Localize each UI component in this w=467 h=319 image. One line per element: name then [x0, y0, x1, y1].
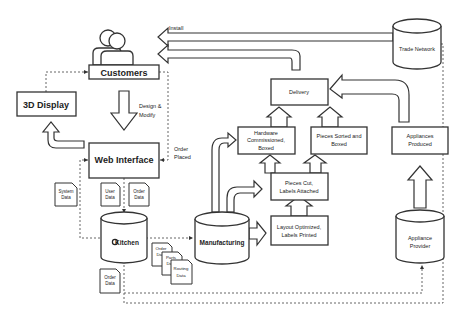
delivery-to-customers-arrow	[158, 45, 300, 70]
appliance-provider-line1: Appliance	[408, 235, 432, 241]
hardware-line1: Hardware	[254, 130, 278, 136]
manufacturing-to-pieces-cut-arrow	[227, 181, 262, 212]
provider-to-appliances-arrow	[408, 166, 432, 208]
appliance-provider-line2: Provider	[410, 243, 431, 249]
design-modify-arrow	[111, 91, 137, 130]
user-data-doc: User Data	[101, 183, 120, 206]
trade-network-label: Trade Network	[399, 46, 435, 52]
kitchen-label: Kitchen	[115, 239, 139, 246]
appliances-to-delivery-arrow	[330, 75, 409, 122]
design-modify-label-2: Modify	[139, 112, 155, 118]
pieces-cut-line2: Labels Attached	[279, 188, 318, 194]
hardware-line3: Boxed	[258, 145, 274, 151]
web-to-display-arrow	[43, 122, 84, 148]
workflow-diagram: Customers Install Design & Modify Order …	[0, 0, 467, 319]
user-data-line2: Data	[105, 195, 115, 200]
web-interface-label: Web Interface	[95, 155, 154, 165]
web-interface-node: Web Interface	[89, 143, 159, 178]
parts-data-line1: Parts	[166, 255, 176, 260]
arrowhead-icon	[84, 70, 88, 74]
3d-display-label: 3D Display	[23, 100, 69, 110]
appliances-produced-node: Appliances Produced	[392, 127, 448, 154]
document-icon	[171, 260, 192, 284]
manufacturing-label: Manufacturing	[200, 239, 245, 247]
appliances-produced-line1: Appliances	[407, 133, 434, 139]
kitchen-node: Kitchen	[101, 212, 147, 263]
hardware-line2: Commissioned,	[247, 137, 285, 143]
pieces-cut-box	[271, 173, 328, 200]
arrowhead-icon	[160, 158, 164, 162]
system-data-line1: System	[58, 189, 73, 194]
order-placed-connector	[159, 72, 168, 160]
arrowhead-icon	[420, 265, 424, 269]
order-data-bottom-line1: Order	[104, 275, 116, 280]
hardware-commissioned-node: Hardware Commissioned, Boxed	[238, 127, 295, 154]
order-data-top-line1: Order	[133, 189, 145, 194]
pieces-sorted-line2: Boxed	[331, 141, 347, 147]
pieces-cut-line1: Pieces Cut,	[285, 180, 314, 186]
customers-label: Customers	[100, 68, 147, 78]
pieces-cut-to-hardware-arrow	[260, 155, 280, 173]
arrowhead-icon	[189, 236, 193, 240]
system-data-doc: System Data	[55, 183, 77, 206]
appliance-provider-cylinder-top	[396, 210, 444, 222]
order-data-stack-line1: Order	[156, 246, 168, 251]
appliance-provider-node: Appliance Provider	[396, 210, 444, 263]
arrowhead-icon	[84, 158, 88, 162]
appliances-produced-line2: Produced	[408, 141, 432, 147]
pieces-cut-to-sorted-arrow	[304, 155, 326, 173]
layout-optimized-line1: Layout Optimized,	[277, 224, 322, 230]
order-parts-routing-docs: Order Data Parts Data Routing Data	[152, 243, 192, 284]
layout-optimized-node: Layout Optimized, Labels Printed	[271, 216, 328, 245]
routing-data-line1: Routing	[174, 266, 189, 271]
delivery-node: Delivery	[271, 79, 328, 105]
order-placed-label-2: Placed	[174, 154, 191, 160]
pieces-sorted-line1: Pieces Sorted and	[317, 133, 362, 139]
layout-optimized-box	[271, 216, 328, 245]
layout-optimized-line2: Labels Printed	[281, 232, 316, 238]
display-to-customers-connector	[46, 72, 88, 92]
delivery-label: Delivery	[289, 89, 309, 95]
routing-data-line2: Data	[176, 273, 186, 278]
hardware-to-delivery-arrow	[267, 107, 291, 127]
3d-display-node: 3D Display	[17, 92, 76, 116]
order-data-bottom-line2: Data	[105, 281, 115, 286]
sorted-to-delivery-arrow	[318, 107, 342, 127]
system-data-line2: Data	[61, 195, 71, 200]
trade-network-cylinder-top	[393, 19, 441, 33]
kitchen-cylinder-top	[101, 212, 147, 224]
order-data-doc-top: Order Data	[129, 183, 149, 206]
trade-network-node: Trade Network	[393, 19, 441, 69]
people-icon	[93, 30, 133, 65]
manufacturing-to-layout-arrow	[249, 222, 266, 245]
design-modify-label-1: Design &	[139, 103, 162, 109]
order-data-top-line2: Data	[134, 195, 144, 200]
install-arrow	[158, 28, 393, 46]
order-placed-label-1: Order	[174, 146, 188, 152]
pieces-cut-node: Pieces Cut, Labels Attached	[271, 173, 328, 200]
order-data-doc-bottom: Order Data	[100, 269, 120, 293]
manufacturing-cylinder-top	[195, 212, 249, 226]
manufacturing-node: Manufacturing	[195, 212, 249, 264]
customers-node: Customers	[89, 30, 159, 79]
user-data-line1: User	[105, 189, 115, 194]
install-label: Install	[169, 25, 183, 31]
pieces-sorted-node: Pieces Sorted and Boxed	[311, 127, 367, 154]
